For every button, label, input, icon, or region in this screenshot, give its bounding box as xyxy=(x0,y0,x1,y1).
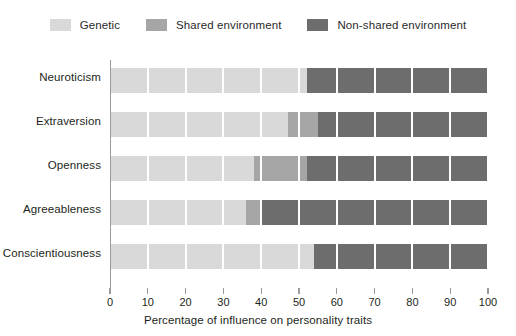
x-axis-tick-label: 80 xyxy=(406,296,418,308)
x-axis-tick-label: 10 xyxy=(142,296,154,308)
x-axis-tick xyxy=(336,288,337,294)
x-axis-tick xyxy=(185,288,186,294)
x-axis-tick-label: 100 xyxy=(479,296,497,308)
legend-item-non-shared-environment: Non-shared environment xyxy=(307,19,466,31)
bar-segment-shared xyxy=(288,112,318,137)
legend-swatch-shared-environment xyxy=(146,19,167,31)
x-axis-tick xyxy=(147,288,148,294)
bar-segment-genetic xyxy=(110,244,314,269)
y-axis-label-extraversion: Extraversion xyxy=(0,115,101,127)
bar-segment-genetic xyxy=(110,112,288,137)
x-axis-tick xyxy=(298,288,299,294)
legend-item-shared-environment: Shared environment xyxy=(146,19,281,31)
legend-label-non-shared-environment: Non-shared environment xyxy=(337,19,466,31)
legend-label-genetic: Genetic xyxy=(80,19,120,31)
bar-segment-genetic xyxy=(110,156,254,181)
bar-segment-nonshared xyxy=(307,156,488,181)
bar-segment-genetic xyxy=(110,68,307,93)
x-axis-tick xyxy=(261,288,262,294)
bar-segment-shared xyxy=(246,200,261,225)
x-axis-title: Percentage of influence on personality t… xyxy=(0,314,516,326)
bar-segment-nonshared xyxy=(261,200,488,225)
bar-segment-nonshared xyxy=(307,68,488,93)
x-axis-tick-label: 70 xyxy=(368,296,380,308)
y-axis-label-openness: Openness xyxy=(0,159,101,171)
bar-row xyxy=(110,244,488,269)
bar-row xyxy=(110,156,488,181)
y-axis-label-conscientiousness: Conscientiousness xyxy=(0,247,101,259)
x-axis-tick-label: 60 xyxy=(331,296,343,308)
bar-segment-nonshared xyxy=(318,112,488,137)
x-axis-tick xyxy=(412,288,413,294)
bar-segment-genetic xyxy=(110,200,246,225)
y-axis-label-agreeableness: Agreeableness xyxy=(0,203,101,215)
x-axis-tick xyxy=(450,288,451,294)
x-axis-tick xyxy=(374,288,375,294)
legend-label-shared-environment: Shared environment xyxy=(176,19,281,31)
x-axis-tick-label: 30 xyxy=(217,296,229,308)
stacked-bar-chart: Genetic Shared environment Non-shared en… xyxy=(0,0,516,336)
y-axis-line xyxy=(110,60,111,288)
x-axis-tick-label: 90 xyxy=(444,296,456,308)
x-axis-tick-label: 40 xyxy=(255,296,267,308)
bar-row xyxy=(110,112,488,137)
x-axis-tick-label: 50 xyxy=(293,296,305,308)
x-axis-tick-label: 20 xyxy=(179,296,191,308)
y-axis-label-neuroticism: Neuroticism xyxy=(0,71,101,83)
x-axis-tick xyxy=(487,288,488,294)
plot-area xyxy=(110,60,488,282)
bar-row xyxy=(110,68,488,93)
bar-segment-shared xyxy=(254,156,307,181)
chart-legend: Genetic Shared environment Non-shared en… xyxy=(0,14,516,36)
bar-row xyxy=(110,200,488,225)
bar-segment-nonshared xyxy=(314,244,488,269)
legend-item-genetic: Genetic xyxy=(50,19,120,31)
legend-swatch-genetic xyxy=(50,19,71,31)
x-axis-tick xyxy=(109,288,110,294)
legend-swatch-non-shared-environment xyxy=(307,19,328,31)
x-axis-tick xyxy=(223,288,224,294)
x-axis-tick-label: 0 xyxy=(107,296,113,308)
